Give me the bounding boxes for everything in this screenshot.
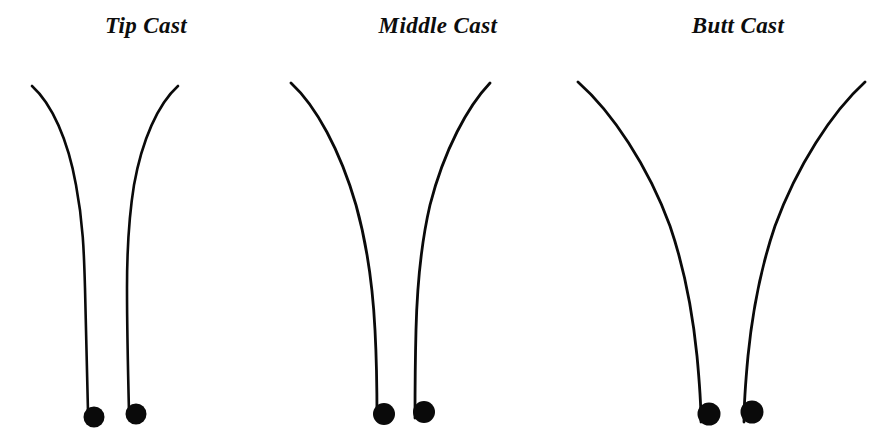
rod-curve-butt-cast-left-rod bbox=[578, 82, 701, 422]
fishing-rod-cast-comparison-figure: Tip CastMiddle CastButt Cast bbox=[0, 0, 892, 447]
rod-curve-middle-cast-right-rod bbox=[415, 83, 490, 418]
rod-curve-tip-cast-left-rod bbox=[32, 86, 88, 412]
rod-handle-dot-middle-cast-right-rod bbox=[413, 401, 435, 423]
rod-curves-canvas bbox=[0, 0, 892, 447]
rod-curve-butt-cast-right-rod bbox=[744, 82, 865, 422]
rod-handle-dot-middle-cast-left-rod bbox=[373, 403, 395, 425]
rod-curve-tip-cast-right-rod bbox=[127, 86, 178, 412]
rod-handle-dot-tip-cast-right-rod bbox=[126, 404, 147, 425]
rod-handle-dot-tip-cast-left-rod bbox=[84, 407, 105, 428]
rod-handle-dot-butt-cast-right-rod bbox=[741, 401, 764, 424]
rod-handle-dot-butt-cast-left-rod bbox=[698, 403, 721, 426]
rod-curve-middle-cast-left-rod bbox=[291, 83, 377, 418]
